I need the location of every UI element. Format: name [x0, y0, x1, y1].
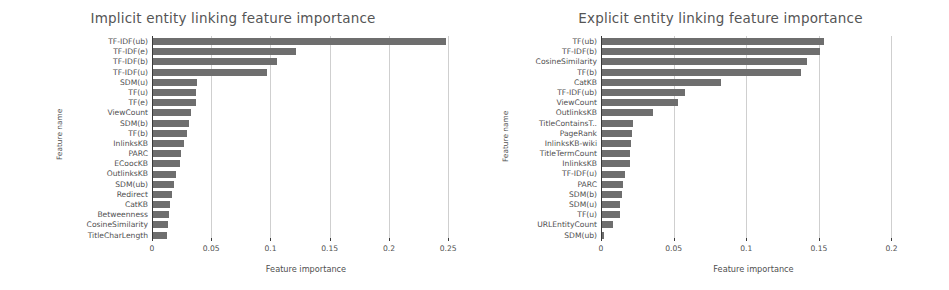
- chart-title-explicit: Explicit entity linking feature importan…: [492, 10, 949, 26]
- bar: [602, 232, 604, 239]
- y-axis-title-implicit: Feature name: [55, 109, 64, 160]
- y-tick-label: TF-IDF(u): [113, 69, 148, 76]
- bar-row: TitleCharLength: [153, 232, 460, 239]
- bar-rows-explicit: TF(ub)TF-IDF(b)CosineSimilarityTF(b)CatK…: [602, 36, 906, 241]
- bar: [602, 99, 678, 106]
- bar-row: TF-IDF(u): [602, 170, 906, 177]
- bar: [153, 232, 167, 239]
- y-tick-label: SDM(u): [120, 79, 148, 86]
- y-tick-label: SDM(b): [569, 191, 597, 198]
- bar-row: TF-IDF(e): [153, 48, 460, 55]
- bar: [602, 79, 721, 86]
- y-tick-label: InlinksKB-wiki: [545, 140, 597, 147]
- bar: [602, 38, 824, 45]
- bar-row: TF(u): [153, 89, 460, 96]
- bar: [153, 191, 172, 198]
- bar: [153, 201, 170, 208]
- feature-importance-figure: Implicit entity linking feature importan…: [0, 0, 949, 290]
- bar-row: CosineSimilarity: [153, 221, 460, 228]
- y-tick-label: TF(b): [128, 130, 148, 137]
- bar-row: CatKB: [153, 201, 460, 208]
- x-axis-title-implicit: Feature importance: [152, 264, 460, 274]
- bar-row: SDM(ub): [602, 232, 906, 239]
- bar-row: TF(u): [602, 211, 906, 218]
- bar-row: CatKB: [602, 79, 906, 86]
- bar-row: SDM(b): [153, 120, 460, 127]
- y-tick-label: TF(u): [577, 211, 597, 218]
- bar: [153, 69, 267, 76]
- y-tick-label: TF-IDF(ub): [108, 38, 148, 45]
- bar-row: TF-IDF(b): [602, 48, 906, 55]
- chart-title-implicit: Implicit entity linking feature importan…: [0, 10, 474, 26]
- bar: [153, 221, 168, 228]
- bar-row: CosineSimilarity: [602, 58, 906, 65]
- bar-row: OutlinksKB: [602, 109, 906, 116]
- x-tick-mark: [270, 238, 271, 241]
- bar: [602, 69, 801, 76]
- bar-row: InlinksKB: [602, 160, 906, 167]
- y-tick-label: InlinksKB: [113, 140, 148, 147]
- x-axis-ticks-explicit: 00.050.10.150.2: [601, 241, 906, 259]
- bar-row: URLEntityCount: [602, 221, 906, 228]
- bar-row: SDM(b): [602, 191, 906, 198]
- x-tick-mark: [389, 238, 390, 241]
- y-tick-label: PARC: [578, 181, 598, 188]
- x-axis-ticks-implicit: 00.050.10.150.20.25: [152, 241, 460, 259]
- bar-row: InlinksKB: [153, 140, 460, 147]
- y-axis-title-explicit: Feature name: [501, 111, 510, 162]
- bar-row: TF(ub): [602, 38, 906, 45]
- y-tick-label: TF-IDF(u): [562, 170, 597, 177]
- x-tick-label: 0.15: [810, 244, 827, 253]
- bar: [153, 181, 174, 188]
- bar: [602, 191, 622, 198]
- y-tick-label: SDM(ub): [564, 232, 597, 239]
- bar-row: OutlinksKB: [153, 170, 460, 177]
- x-tick-mark: [601, 238, 602, 241]
- x-tick-mark: [674, 238, 675, 241]
- bar-row: ECoocKB: [153, 160, 460, 167]
- y-tick-label: TF-IDF(e): [113, 48, 148, 55]
- bar: [602, 89, 685, 96]
- bar: [602, 160, 630, 167]
- x-tick-mark: [152, 238, 153, 241]
- y-tick-label: TF(u): [128, 89, 148, 96]
- y-tick-label: PARC: [129, 150, 149, 157]
- y-tick-label: SDM(b): [120, 120, 148, 127]
- bar: [153, 120, 189, 127]
- bar-row: SDM(u): [153, 79, 460, 86]
- bar: [153, 150, 181, 157]
- bar: [602, 140, 631, 147]
- x-tick-mark: [448, 238, 449, 241]
- explicit-chart-panel: Explicit entity linking feature importan…: [474, 0, 949, 290]
- bar-row: TF(b): [153, 130, 460, 137]
- bar-row: PageRank: [602, 130, 906, 137]
- x-tick-mark: [891, 238, 892, 241]
- x-tick-label: 0: [599, 244, 604, 253]
- bar: [153, 58, 277, 65]
- y-tick-label: OutlinksKB: [107, 170, 148, 177]
- x-tick-mark: [211, 238, 212, 241]
- x-tick-label: 0.2: [383, 244, 395, 253]
- bar: [153, 109, 191, 116]
- y-tick-label: CosineSimilarity: [536, 58, 597, 65]
- y-tick-label: TitleTermCount: [540, 150, 597, 157]
- y-tick-label: CosineSimilarity: [87, 221, 148, 228]
- x-tick-mark: [746, 238, 747, 241]
- bar-row: Betweenness: [153, 211, 460, 218]
- bar-row: SDM(ub): [153, 181, 460, 188]
- x-tick-mark: [819, 238, 820, 241]
- bar-row: Redirect: [153, 191, 460, 198]
- bar-row: ViewCount: [153, 109, 460, 116]
- bar: [602, 109, 653, 116]
- y-tick-label: TF-IDF(ub): [557, 89, 597, 96]
- bar: [602, 211, 620, 218]
- y-tick-label: TF(ub): [572, 38, 597, 45]
- y-tick-label: Redirect: [117, 191, 148, 198]
- y-tick-label: CatKB: [125, 201, 148, 208]
- bar-row: TF(b): [602, 69, 906, 76]
- bar: [153, 160, 180, 167]
- bar-rows-implicit: TF-IDF(ub)TF-IDF(e)TF-IDF(b)TF-IDF(u)SDM…: [153, 36, 460, 241]
- y-tick-label: TitleContainsT..: [539, 120, 597, 127]
- bar: [602, 171, 625, 178]
- y-tick-label: TitleCharLength: [88, 232, 148, 239]
